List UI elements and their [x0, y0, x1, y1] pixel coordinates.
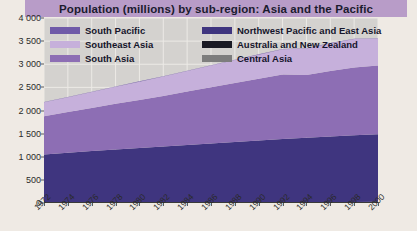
- chart-page: Population (millions) by sub-region: Asi…: [0, 0, 417, 231]
- y-axis-tick-label: 2 000: [0, 106, 41, 116]
- legend-label: Australia and New Zealand: [237, 39, 358, 50]
- legend-swatch-icon: [50, 55, 80, 62]
- legend-item[interactable]: South Pacific: [50, 23, 202, 37]
- legend-label: Northwest Pacific and East Asia: [237, 25, 381, 36]
- legend-item[interactable]: South Asia: [50, 51, 202, 65]
- y-axis-tick-mark: [41, 156, 44, 157]
- y-axis-tick-label: 4 000: [0, 13, 41, 23]
- y-axis-tick-label: 1 500: [0, 129, 41, 139]
- legend-swatch-icon: [202, 41, 232, 48]
- chart-legend: South PacificNorthwest Pacific and East …: [50, 23, 360, 65]
- y-axis-tick-label: 3 000: [0, 59, 41, 69]
- legend-item[interactable]: Central Asia: [202, 51, 360, 65]
- y-axis-tick-mark: [41, 87, 44, 88]
- y-axis-tick-label: 2 500: [0, 82, 41, 92]
- legend-label: South Asia: [85, 53, 134, 64]
- y-axis-tick-mark: [41, 41, 44, 42]
- y-axis-tick-label: 3 500: [0, 36, 41, 46]
- legend-swatch-icon: [202, 27, 232, 34]
- legend-label: South Pacific: [85, 25, 145, 36]
- legend-item[interactable]: Northwest Pacific and East Asia: [202, 23, 360, 37]
- y-axis-tick-mark: [41, 133, 44, 134]
- legend-item[interactable]: Australia and New Zealand: [202, 37, 360, 51]
- y-axis: 05001 0001 5002 0002 5003 0003 5004 000: [0, 18, 41, 203]
- y-axis-tick-label: 1 000: [0, 152, 41, 162]
- x-axis: 1972197419761978198019821984198619881990…: [44, 203, 378, 231]
- chart-title-bar: Population (millions) by sub-region: Asi…: [25, 0, 407, 17]
- legend-label: Central Asia: [237, 53, 292, 64]
- page-title: Population (millions) by sub-region: Asi…: [59, 3, 373, 15]
- legend-label: Southeast Asia: [85, 39, 153, 50]
- y-axis-tick-mark: [41, 18, 44, 19]
- y-axis-tick-mark: [41, 64, 44, 65]
- legend-swatch-icon: [50, 27, 80, 34]
- legend-swatch-icon: [202, 55, 232, 62]
- y-axis-tick-mark: [41, 179, 44, 180]
- y-axis-tick-label: 500: [0, 175, 41, 185]
- legend-item[interactable]: Southeast Asia: [50, 37, 202, 51]
- legend-swatch-icon: [50, 41, 80, 48]
- y-axis-tick-mark: [41, 110, 44, 111]
